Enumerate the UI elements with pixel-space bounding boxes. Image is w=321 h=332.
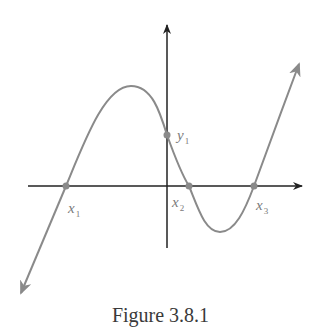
label-x1: x1 xyxy=(67,200,80,219)
point-x2 xyxy=(186,183,193,190)
cubic-curve xyxy=(66,86,254,232)
label-x2: x2 xyxy=(171,194,184,213)
point-x1 xyxy=(63,183,70,190)
curve-right-tail xyxy=(254,64,299,186)
label-x3: x3 xyxy=(255,197,269,216)
cubic-graph: x1 x2 x3 y1 xyxy=(0,0,321,332)
point-x3 xyxy=(251,183,258,190)
label-y1: y1 xyxy=(175,127,189,146)
point-y1 xyxy=(164,132,171,139)
curve-left-tail xyxy=(21,186,66,293)
figure-caption: Figure 3.8.1 xyxy=(0,304,321,327)
